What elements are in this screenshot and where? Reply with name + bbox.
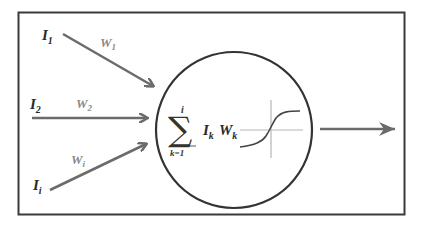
summation-formula: i ∑ k=1 Ik Wk bbox=[168, 104, 237, 158]
svg-text:Wi: Wi bbox=[71, 152, 86, 169]
svg-text:W2: W2 bbox=[76, 96, 93, 113]
svg-text:Wk: Wk bbox=[219, 122, 237, 141]
svg-text:W1: W1 bbox=[100, 35, 116, 52]
sum-lower-limit: k=1 bbox=[170, 148, 184, 158]
sigma-icon: ∑ bbox=[168, 109, 192, 149]
svg-text:Ii: Ii bbox=[32, 177, 42, 196]
svg-text:Ik: Ik bbox=[202, 122, 214, 141]
sigmoid-activation-icon bbox=[240, 100, 303, 158]
svg-text:I2: I2 bbox=[29, 96, 41, 115]
sigmoid-curve bbox=[240, 111, 300, 147]
input-i-arrow bbox=[50, 144, 146, 190]
svg-text:I1: I1 bbox=[41, 27, 53, 46]
input-i: Ii Wi bbox=[32, 144, 146, 196]
input-2: I2 W2 bbox=[29, 96, 147, 118]
neuron-diagram: I1 W1 I2 W2 Ii Wi i ∑ k=1 Ik bbox=[0, 0, 423, 225]
input-1: I1 W1 bbox=[41, 27, 153, 86]
